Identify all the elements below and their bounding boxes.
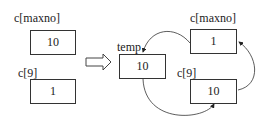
before-maxno-value: 10 — [47, 35, 59, 50]
before-c9-value: 1 — [50, 84, 56, 99]
after-maxno-value: 1 — [211, 34, 217, 49]
temp-label: temp — [117, 41, 141, 53]
after-c9-value: 10 — [208, 84, 220, 99]
after-c9-label: c[9] — [177, 67, 196, 79]
transition-arrow-icon — [86, 54, 111, 70]
temp-value: 10 — [137, 59, 149, 74]
temp-box: 10 — [119, 54, 166, 79]
before-c9-label: c[9] — [18, 67, 37, 79]
before-maxno-label: c[maxno] — [14, 12, 60, 24]
after-c9-box: 10 — [190, 79, 237, 104]
after-maxno-label: c[maxno] — [190, 12, 236, 24]
before-c9-box: 1 — [30, 79, 76, 104]
after-maxno-box: 1 — [190, 29, 237, 54]
arrow-maxno-to-temp — [143, 31, 190, 52]
before-maxno-box: 10 — [30, 30, 76, 55]
arrow-c9-to-maxno — [238, 42, 255, 90]
